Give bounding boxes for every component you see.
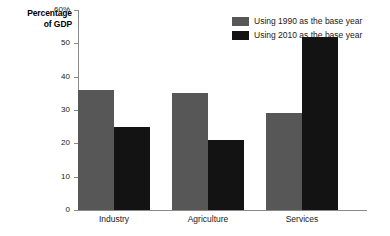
bar xyxy=(208,140,244,210)
y-axis-tick xyxy=(74,210,79,211)
chart-legend: Using 1990 as the base yearUsing 2010 as… xyxy=(232,15,362,43)
bar-chart: Percentage of GDP 0102030405060% Industr… xyxy=(0,0,390,236)
y-axis-tick-label: 40 xyxy=(12,72,70,81)
y-axis-title-line-2: of GDP xyxy=(0,19,72,30)
y-axis-tick-label: 60% xyxy=(12,5,70,14)
legend-label: Using 1990 as the base year xyxy=(254,16,362,26)
legend-item: Using 2010 as the base year xyxy=(232,29,362,41)
y-axis-tick-label: 10 xyxy=(12,172,70,181)
legend-item: Using 1990 as the base year xyxy=(232,15,362,27)
bar-group xyxy=(78,10,150,210)
bar xyxy=(266,113,302,210)
x-axis-line xyxy=(78,210,367,211)
y-axis-tick-label: 0 xyxy=(12,205,70,214)
legend-swatch xyxy=(232,31,249,40)
y-axis-tick-label: 50 xyxy=(12,38,70,47)
legend-label: Using 2010 as the base year xyxy=(254,30,362,40)
x-axis-label: Services xyxy=(242,214,362,224)
bar xyxy=(302,37,338,210)
bar xyxy=(114,127,150,210)
legend-swatch xyxy=(232,17,249,26)
y-axis-tick-label: 20 xyxy=(12,138,70,147)
bar xyxy=(172,93,208,210)
bar xyxy=(78,90,114,210)
y-axis-tick-label: 30 xyxy=(12,105,70,114)
